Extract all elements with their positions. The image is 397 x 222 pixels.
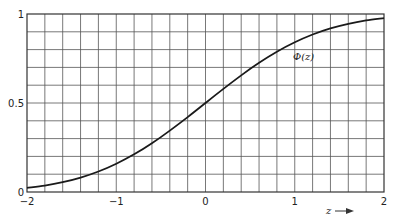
y-tick-label: 1 [18, 9, 24, 20]
x-axis-label: z [325, 205, 354, 216]
normal-cdf-chart: 00.51 −2−1012 Φ(z) z [0, 0, 397, 222]
x-tick-label: 0 [202, 196, 208, 207]
x-axis-label-text: z [325, 205, 332, 216]
y-tick-label: 0.5 [8, 98, 24, 109]
x-tick-label: −2 [20, 196, 35, 207]
x-tick-label: −1 [109, 196, 124, 207]
arrowhead-icon [346, 208, 354, 214]
curve-label: Φ(z) [293, 51, 314, 62]
x-tick-label: 2 [381, 196, 387, 207]
x-tick-labels: −2−1012 [20, 196, 388, 207]
y-tick-labels: 00.51 [8, 9, 24, 198]
x-tick-label: 1 [292, 196, 298, 207]
